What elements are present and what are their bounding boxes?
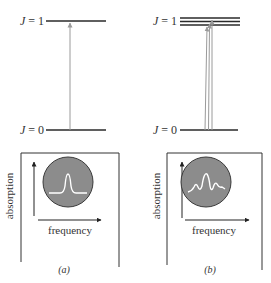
caption-a: (a) bbox=[58, 264, 70, 276]
energy-level-diagram: J = 1 J = 0 absorption frequency (a) J =… bbox=[0, 0, 271, 283]
transition-arrow-b-1 bbox=[205, 27, 207, 130]
caption-b: (b) bbox=[204, 264, 216, 276]
panel-b: J = 1 J = 0 absorption frequency (b) bbox=[150, 14, 262, 276]
spectrum-circle-a bbox=[43, 157, 93, 207]
level-label-upper-a: J = 1 bbox=[20, 14, 44, 28]
spectrum-circle-b bbox=[181, 157, 231, 207]
level-label-upper-b: J = 1 bbox=[153, 14, 177, 28]
x-axis-label-b: frequency bbox=[192, 224, 236, 236]
level-label-lower-b: J = 0 bbox=[153, 123, 177, 137]
transition-arrow-b-2 bbox=[209, 24, 210, 130]
x-axis-label-a: frequency bbox=[48, 224, 92, 236]
y-axis-label-b: absorption bbox=[150, 172, 162, 219]
panel-a: J = 1 J = 0 absorption frequency (a) bbox=[3, 14, 119, 276]
y-axis-label-a: absorption bbox=[3, 172, 15, 219]
level-label-lower-a: J = 0 bbox=[20, 123, 44, 137]
